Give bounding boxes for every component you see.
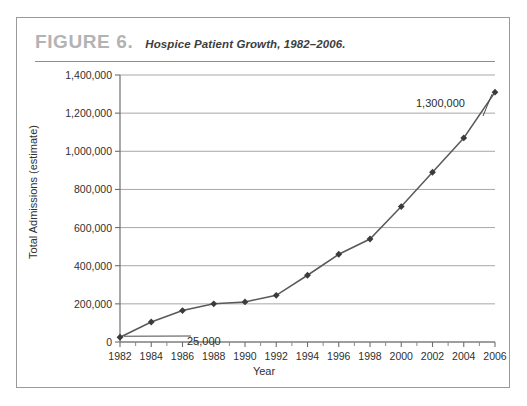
x-axis-title: Year — [17, 365, 511, 377]
chart-plot-area: 0200,000400,000600,000800,0001,000,0001,… — [17, 18, 511, 389]
y-axis-title: Total Admissions (estimate) — [27, 92, 39, 292]
x-axis-ticks — [120, 342, 495, 347]
x-axis-tick-label: 2006 — [475, 350, 515, 362]
annotation-first-value: 25,000 — [187, 335, 221, 347]
grid-lines — [120, 75, 495, 342]
y-axis-tick-label: 800,000 — [42, 183, 112, 195]
y-axis-tick-label: 1,200,000 — [42, 107, 112, 119]
data-point-marker — [242, 299, 249, 306]
y-axis-tick-label: 0 — [42, 336, 112, 348]
data-series-line — [120, 92, 495, 337]
annotation-last-value: 1,300,000 — [416, 97, 465, 109]
y-axis-tick-label: 200,000 — [42, 298, 112, 310]
y-axis-tick-label: 1,000,000 — [42, 145, 112, 157]
figure-frame: FIGURE 6. Hospice Patient Growth, 1982–2… — [16, 17, 510, 388]
chart-axes — [120, 75, 495, 342]
y-axis-tick-label: 400,000 — [42, 260, 112, 272]
data-point-marker — [148, 319, 155, 326]
data-point-marker — [117, 334, 124, 341]
data-point-markers — [117, 89, 499, 341]
data-point-marker — [210, 300, 217, 307]
y-axis-tick-label: 600,000 — [42, 222, 112, 234]
y-axis-tick-label: 1,400,000 — [42, 69, 112, 81]
y-axis-ticks — [115, 75, 120, 342]
data-point-marker — [179, 307, 186, 314]
